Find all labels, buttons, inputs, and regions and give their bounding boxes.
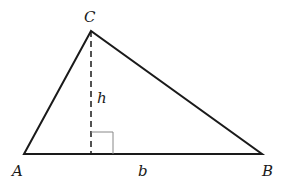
height-label: h xyxy=(97,89,107,107)
vertex-label-c: C xyxy=(84,8,96,26)
vertex-label-a: A xyxy=(10,162,23,180)
triangle-diagram: A B C h b xyxy=(0,0,294,186)
triangle-abc xyxy=(24,31,262,154)
right-angle-marker xyxy=(91,132,113,154)
vertex-label-b: B xyxy=(261,162,273,180)
base-label: b xyxy=(138,162,148,180)
